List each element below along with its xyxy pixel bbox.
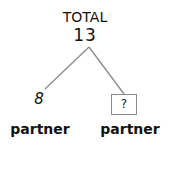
- left-branch-line: [45, 47, 89, 89]
- unknown-part-box: ?: [111, 94, 137, 115]
- part-whole-diagram: TOTAL 13 8 ? partner partner: [0, 0, 169, 175]
- total-label: TOTAL: [59, 9, 111, 25]
- left-part-label: partner: [6, 121, 74, 137]
- right-branch-line: [89, 47, 124, 94]
- right-part-label: partner: [96, 121, 164, 137]
- left-part-value: 8: [30, 90, 48, 108]
- unknown-part-value: ?: [112, 97, 136, 111]
- total-value: 13: [69, 25, 101, 45]
